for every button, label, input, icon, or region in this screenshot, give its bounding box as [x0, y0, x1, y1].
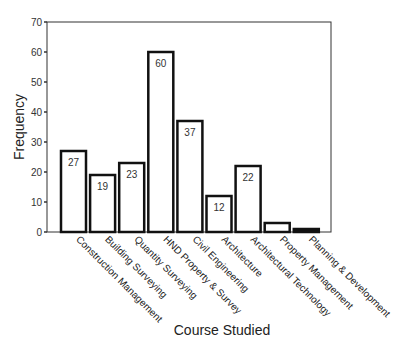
x-axis-title: Course Studied — [174, 322, 271, 338]
bars: 27192360371222 — [61, 52, 319, 232]
bar-value-label: 37 — [184, 127, 196, 138]
bar: 12 — [207, 196, 232, 232]
bar — [265, 223, 290, 232]
bar-value-label: 23 — [126, 169, 138, 180]
bar: 23 — [119, 163, 144, 232]
bar: 19 — [90, 175, 115, 232]
bar-chart: 010203040506070 27192360371222 Construct… — [0, 0, 407, 355]
bar-value-label: 19 — [97, 181, 109, 192]
bar-value-label: 27 — [68, 157, 80, 168]
y-axis: 010203040506070 — [31, 17, 47, 238]
y-tick-label: 30 — [31, 137, 43, 148]
y-axis-title: Frequency — [11, 94, 27, 160]
y-tick-label: 70 — [31, 17, 43, 28]
bar-value-label: 60 — [155, 58, 167, 69]
bar: 27 — [61, 151, 86, 232]
y-tick-label: 10 — [31, 197, 43, 208]
y-tick-label: 50 — [31, 77, 43, 88]
x-axis-labels: Construction ManagementBuilding Surveyin… — [74, 234, 393, 325]
bar: 37 — [177, 121, 202, 232]
y-tick-label: 60 — [31, 47, 43, 58]
y-tick-label: 0 — [36, 227, 42, 238]
bar: 60 — [148, 52, 173, 232]
bar-value-label: 12 — [213, 202, 225, 213]
bar — [294, 229, 319, 232]
y-tick-label: 40 — [31, 107, 43, 118]
y-tick-label: 20 — [31, 167, 43, 178]
bar: 22 — [236, 166, 261, 232]
bar-value-label: 22 — [243, 172, 255, 183]
